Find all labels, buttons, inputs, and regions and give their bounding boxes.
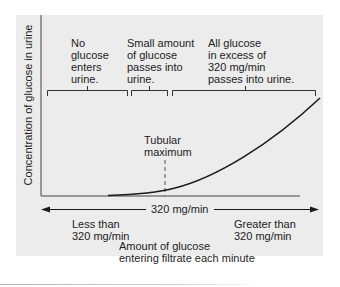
bracket-no-glucose [48,86,128,96]
bottom-divider [0,284,260,285]
y-axis-label: Concentration of glucose in urine [22,25,34,186]
bracket-small-amount [132,86,168,96]
arrow-center-label: 320 mg/min [151,203,208,215]
region-label-small-amount: Small amount of glucose passes into urin… [127,37,194,85]
region-label-all-excess: All glucose in excess of 320 mg/min pass… [208,37,294,85]
less-than-label: Less than 320 mg/min [72,218,129,242]
glucose-concentration-curve [108,98,320,196]
region-label-no-glucose: No glucose enters urine. [71,37,109,85]
greater-than-label: Greater than 320 mg/min [234,218,296,242]
bracket-all-excess [173,86,316,96]
x-axis-label: Amount of glucose entering filtrate each… [119,240,255,264]
tubular-maximum-label: Tubular maximum [144,134,192,158]
